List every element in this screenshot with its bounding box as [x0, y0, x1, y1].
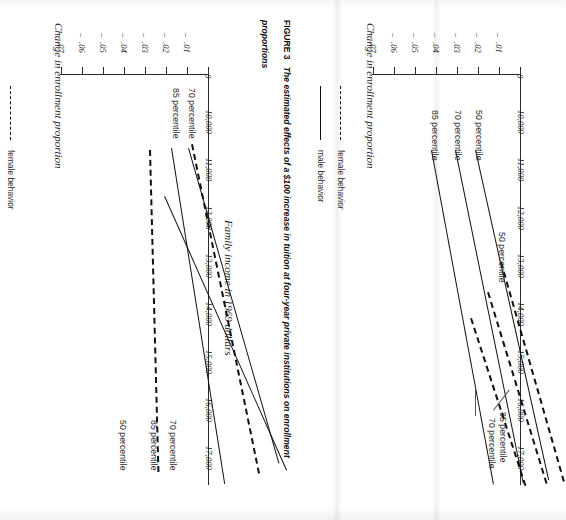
left-legend-female-label: female behavior: [6, 150, 16, 210]
right-ticklabel-0: 0: [515, 74, 525, 78]
left-tick-03: [145, 67, 146, 74]
right-income-11000: 11,000: [516, 158, 526, 181]
right-ticklabel-01: .01: [494, 42, 504, 53]
right-tick-0: [520, 67, 521, 74]
figure-number: FIGURE 3: [282, 20, 292, 60]
left-minus-03: –: [140, 33, 150, 37]
right-tick-01: [499, 67, 500, 74]
right-ticklabel-02: .02: [473, 42, 483, 53]
figure-caption-line1: The estimated effects of a $100 increase…: [282, 67, 292, 458]
left-minus-02: –: [161, 33, 171, 37]
right-minus-04: –: [431, 33, 441, 37]
right-line-p50-female: [500, 262, 565, 482]
right-line-p85-male: [431, 150, 494, 484]
left-tick-02: [166, 67, 167, 74]
left-line-p70-female: [191, 144, 260, 474]
left-label-p85-bot: 85 percentile: [149, 420, 159, 471]
right-legend-female-key: [340, 86, 341, 140]
left-tick-01: [187, 67, 188, 74]
right-tick-02: [478, 67, 479, 74]
right-ticklabel-05: .05: [410, 42, 420, 53]
right-income-12000: 12,000: [516, 206, 526, 230]
left-ticklabel-02: .02: [161, 42, 171, 53]
right-tick-05: [415, 67, 416, 74]
chart-left-panel: 0 .01 .02 .03 .04 .05 .06 .07 – – – – – …: [0, 0, 300, 520]
figure-caption: FIGURE 3 The estimated effects of a $100…: [282, 20, 292, 458]
right-label-p50: 50 percentile: [474, 110, 484, 161]
right-label-p70: 70 percentile: [453, 110, 463, 161]
left-income-axis-line: [208, 74, 209, 485]
right-minus-01: –: [494, 33, 504, 37]
right-label-p70-female: 70 percentile: [487, 418, 497, 469]
left-label-p85-top: 85 percentile: [171, 88, 181, 139]
scanned-page: 0 .01 .02 .03 .04 .05 .06 .07 – – – – – …: [0, 0, 566, 520]
left-ticklabel-06: .06: [77, 42, 87, 53]
right-income-10000: 10,000: [516, 110, 526, 134]
right-legend-male-key: [320, 86, 321, 140]
left-minus-01: –: [182, 33, 192, 37]
right-minus-06: –: [389, 33, 399, 37]
right-ticklabel-06: .06: [389, 42, 399, 53]
left-value-axis-title: Change in enrollment proportion: [53, 23, 65, 169]
left-legend-female-key: [10, 86, 11, 140]
left-ticklabel-01: .01: [182, 42, 192, 53]
right-tick-03: [457, 67, 458, 74]
left-tick-04: [124, 67, 125, 74]
right-tick-06: [394, 67, 395, 74]
left-minus-05: –: [98, 33, 108, 37]
right-minus-05: –: [410, 33, 420, 37]
right-income-13000: 13,000: [516, 254, 526, 278]
right-tick-04: [436, 67, 437, 74]
figure-caption-line2: proportions: [260, 20, 270, 68]
left-ticklabel-0: 0: [203, 74, 213, 78]
left-label-p70-top: 70 percentile: [187, 88, 197, 139]
left-income-17000: 17,000: [204, 446, 214, 470]
right-legend-female-label: female behavior: [336, 150, 346, 210]
right-minus-02: –: [473, 33, 483, 37]
left-ticklabel-03: .03: [140, 42, 150, 53]
left-ticklabel-04: .04: [119, 42, 129, 53]
left-ticklabel-05: .05: [98, 42, 108, 53]
right-ticklabel-03: .03: [452, 42, 462, 53]
left-tick-06: [82, 67, 83, 74]
chart-right-panel: 0 .01 .02 .03 .04 .05 .06 .07 – – – – – …: [366, 0, 566, 520]
left-label-p70-bot: 70 percentile: [168, 420, 178, 471]
left-label-p50-bot: 50 percentile: [118, 420, 128, 471]
right-ticklabel-04: .04: [431, 42, 441, 53]
right-label-p50-female: 50 percentile: [497, 232, 507, 283]
right-label-p85: 85 percentile: [430, 110, 440, 161]
right-legend-male-label: male behavior: [316, 150, 326, 203]
left-income-13000: 13,000: [204, 254, 214, 278]
left-minus-06: –: [77, 33, 87, 37]
figure-caption-continued: proportions: [260, 20, 270, 68]
left-tick-05: [103, 67, 104, 74]
right-leader-branch: [475, 388, 476, 416]
right-value-axis-line: [372, 74, 521, 75]
left-income-10000: 10,000: [204, 110, 214, 134]
right-minus-03: –: [452, 33, 462, 37]
left-minus-04: –: [119, 33, 129, 37]
scan-gutter-1: [332, 0, 342, 520]
right-income-axis-line: [520, 74, 521, 485]
left-value-axis-line: [60, 74, 209, 75]
right-label-p85-female: 85 percentile: [498, 412, 508, 463]
left-tick-0: [208, 67, 209, 74]
left-income-11000: 11,000: [204, 158, 214, 181]
right-value-axis-title: Change in enrollment proportion: [365, 23, 377, 169]
